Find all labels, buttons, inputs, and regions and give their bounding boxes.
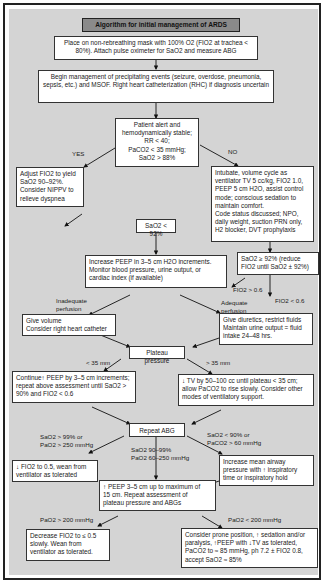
- mid-sat-label: SaO2 90–99% PaO2 60–250 mmHg: [131, 446, 189, 461]
- map-line: pressure with ↑ inspiratory: [223, 466, 310, 474]
- low-sat-line: SaO2 < 90% or: [207, 431, 261, 439]
- plateau-pressure-box: Plateau pressure: [129, 346, 185, 359]
- sao2-lt92-box: SaO2 < 92%: [136, 219, 176, 233]
- pao2-gt200-label: PaO2 > 200 mmHg: [40, 516, 93, 524]
- peep-max-line: plateau pressure and ABGs: [103, 499, 212, 507]
- wean-box: ↓ FIO2 to 0.5, wean from ventilator as t…: [12, 460, 98, 482]
- prone-line: paralysis, ↑PEEP with ↓TV as tolerated,: [185, 539, 314, 547]
- tv-line: ↓ TV by 50–100 cc until plateau < 35 cm;: [182, 377, 310, 385]
- intubate-line: mode; conscious sedation to: [215, 194, 310, 202]
- diagram-title: Algorithm for initial management of ARDS: [82, 18, 240, 32]
- continue-line: 90% and FIO2 < 0.6: [16, 390, 132, 398]
- adjust-line: Adjust FIO2 to yield: [20, 170, 80, 178]
- stable-line: hemodynamically stable;: [119, 129, 195, 137]
- peep-line: Monitor blood pressure, urine output, or: [89, 266, 223, 274]
- adjust-line: SaO2 90–92%.: [20, 178, 80, 186]
- lt35-label: < 35 mm: [86, 359, 110, 367]
- sao2-ge92-box: SaO2 ≥ 92% (reduce FIO2 until SaO2 ± 92%…: [237, 252, 319, 275]
- volume-line: Give volume: [26, 317, 112, 325]
- map-line: Increase mean airway: [223, 458, 310, 466]
- intubate-line: daily weight, suction PRN only,: [215, 218, 310, 226]
- gt35-label: > 35 mm: [206, 359, 230, 367]
- mid-sat-line: SaO2 90–99%: [131, 446, 189, 454]
- intubate-box: Intubate, volume cycle as ventilator TV …: [211, 166, 314, 242]
- high-sat-line: PaO2 > 250 mmHg: [40, 441, 93, 449]
- peep-line: cardiac index (if available): [89, 274, 223, 282]
- peep-max-box: ↑ PEEP 3–5 cm up to maximum of 15 cm. Re…: [99, 480, 216, 511]
- yes-label: YES: [72, 150, 84, 158]
- stable-check-box: Patient alert and hemodynamically stable…: [115, 118, 199, 167]
- peep-max-line: ↑ PEEP 3–5 cm up to maximum of: [103, 483, 212, 491]
- prone-position-box: Consider prone position, ↑ sedation and/…: [181, 528, 318, 568]
- increase-peep-box: Increase PEEP in 3–5 cm H2O increments. …: [85, 255, 227, 288]
- start-box: Place on non-rebreathing mask with 100% …: [54, 36, 258, 60]
- no-label: NO: [228, 148, 237, 156]
- low-sat-line: PaCO2 > 60 mmHg: [207, 439, 261, 447]
- ge92-line: SaO2 ≥ 92% (reduce: [241, 255, 315, 263]
- precipitating-events-box: Begin management of precipitating events…: [38, 70, 274, 103]
- stable-line: RR < 40;: [119, 137, 195, 145]
- adequate-line: Adequate: [221, 299, 248, 307]
- low-sat-label: SaO2 < 90% or PaCO2 > 60 mmHg: [207, 431, 261, 446]
- stable-line: SaO2 > 88%: [119, 154, 195, 162]
- inadequate-line: perfusion: [56, 305, 87, 313]
- diuretics-line: Maintain urine output = fluid: [223, 324, 309, 332]
- high-sat-line: SaO2 > 99% or: [40, 433, 93, 441]
- peep-line: Increase PEEP in 3–5 cm H2O increments.: [89, 258, 223, 266]
- decrease-line: slowly. Wean from: [30, 540, 106, 548]
- map-line: time or inspiratory hold: [223, 474, 310, 482]
- intubate-line: maintain comfort.: [215, 202, 310, 210]
- high-sat-label: SaO2 > 99% or PaO2 > 250 mmHg: [40, 433, 93, 448]
- give-volume-box: Give volume Consider right heart cathete…: [22, 314, 116, 336]
- prone-line: accept SaO2 ≈ 85%: [185, 556, 314, 564]
- inadequate-perfusion-label: Inadequate perfusion: [56, 297, 87, 312]
- wean-line: ↓ FIO2 to 0.5, wean from: [16, 463, 94, 471]
- increase-map-box: Increase mean airway pressure with ↑ ins…: [219, 455, 314, 486]
- adjust-line: relieve dyspnea: [20, 195, 80, 203]
- adequate-perfusion-label: Adequate perfusion: [221, 299, 248, 314]
- diuretics-line: Give diuretics, restrict fluids: [223, 316, 309, 324]
- tv-line: modes of ventilatory support.: [182, 393, 310, 401]
- adjust-fio2-box: Adjust FIO2 to yield SaO2 90–92%. Consid…: [16, 167, 84, 207]
- fio2-gt-label: FIO2 > 0.6: [233, 286, 262, 294]
- intubate-line: Intubate, volume cycle as: [215, 169, 310, 177]
- decrease-line: Decrease FIO2 to ≤ 0.5: [30, 532, 106, 540]
- mid-sat-line: PaO2 60–250 mmHg: [131, 454, 189, 462]
- intubate-line: H2 blocker, DVT prophylaxis: [215, 226, 310, 234]
- continue-peep-box: Continue↑ PEEP by 3–5 cm increments; rep…: [12, 371, 136, 403]
- intubate-line: ventilator TV 5 cc/kg, FIO2 1.0,: [215, 177, 310, 185]
- wean-line: ventilator as tolerated: [16, 471, 94, 479]
- ge92-line: FIO2 until SaO2 ± 92%): [241, 263, 315, 271]
- stable-line: PaCO2 < 35 mmHg;: [119, 146, 195, 154]
- intubate-line: Code status discussed; NPO,: [215, 210, 310, 218]
- prone-line: PaCO2 to ≈ 85 mmHg, ph 7.2 ± FIO2 0.8,: [185, 547, 314, 555]
- volume-line: Consider right heart catheter: [26, 325, 112, 333]
- repeat-abg-box: Repeat ABG: [129, 423, 185, 437]
- fio2-lt-label: FIO2 < 0.6: [275, 297, 304, 305]
- prone-line: Consider prone position, ↑ sedation and/…: [185, 531, 314, 539]
- intubate-line: PEEP 5 cm H2O, assist control: [215, 185, 310, 193]
- continue-line: repeat above assessment until SaO2 >: [16, 382, 132, 390]
- continue-line: Continue↑ PEEP by 3–5 cm increments;: [16, 374, 132, 382]
- tv-line: allow PaCO2 to rise slowly. Consider oth…: [182, 385, 310, 393]
- peep-max-line: 15 cm. Repeat assessment of: [103, 491, 212, 499]
- diuretics-line: intake 24–48 hrs.: [223, 332, 309, 340]
- decrease-tv-box: ↓ TV by 50–100 cc until plateau < 35 cm;…: [178, 374, 314, 406]
- adjust-line: Consider NIPPV to: [20, 186, 80, 194]
- decrease-fio2-box: Decrease FIO2 to ≤ 0.5 slowly. Wean from…: [26, 529, 110, 561]
- inadequate-line: Inadequate: [56, 297, 87, 305]
- pao2-lt200-label: PaO2 < 200 mmHg: [228, 516, 281, 524]
- give-diuretics-box: Give diuretics, restrict fluids Maintain…: [219, 313, 313, 345]
- decrease-line: ventilator as tolerated.: [30, 548, 106, 556]
- stable-line: Patient alert and: [119, 121, 195, 129]
